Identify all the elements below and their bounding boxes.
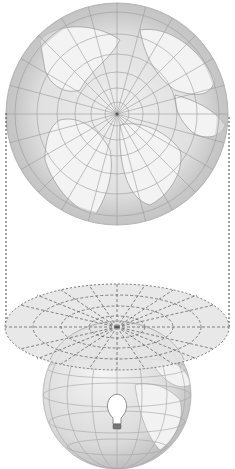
north-pole-marker	[115, 112, 118, 115]
polar-map	[6, 3, 228, 225]
projection-diagram	[0, 0, 235, 469]
projection-plane	[5, 284, 229, 370]
